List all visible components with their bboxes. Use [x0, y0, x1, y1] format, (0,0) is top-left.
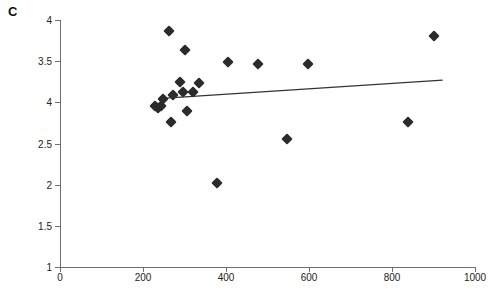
y-axis-tick-label: 3.5: [8, 56, 52, 67]
y-axis-tick: [55, 61, 60, 62]
x-axis-line: [60, 267, 475, 268]
data-point: [252, 59, 263, 70]
trend-line: [0, 0, 496, 292]
x-axis-tick-label: 1000: [464, 272, 486, 283]
x-axis-tick-label: 0: [57, 272, 63, 283]
x-axis-tick-label: 200: [135, 272, 152, 283]
x-axis-tick-label: 400: [218, 272, 235, 283]
data-point: [402, 116, 413, 127]
data-point: [163, 25, 174, 36]
y-axis-tick-label: 4: [8, 97, 52, 108]
data-point: [428, 30, 439, 41]
y-axis-tick-label: 2.5: [8, 138, 52, 149]
data-point: [166, 116, 177, 127]
y-axis-line: [60, 20, 61, 267]
data-point: [211, 177, 222, 188]
data-point: [222, 56, 233, 67]
y-axis-tick: [55, 226, 60, 227]
y-axis-tick: [55, 20, 60, 21]
data-point: [181, 106, 192, 117]
y-axis-tick-label: 1: [8, 262, 52, 273]
data-point: [302, 58, 313, 69]
data-point: [174, 76, 185, 87]
y-axis-tick: [55, 102, 60, 103]
y-axis-tick-label: 1.5: [8, 220, 52, 231]
data-point: [179, 45, 190, 56]
data-point: [187, 87, 198, 98]
x-axis-tick-label: 800: [384, 272, 401, 283]
data-point: [194, 78, 205, 89]
data-point: [282, 133, 293, 144]
y-axis-tick: [55, 144, 60, 145]
y-axis-tick-label: 2: [8, 179, 52, 190]
scatter-plot: 43.542.521.51 02004006008001000: [0, 0, 496, 292]
x-axis-tick-label: 600: [301, 272, 318, 283]
y-axis-tick-label: 4: [8, 15, 52, 26]
y-axis-tick: [55, 185, 60, 186]
